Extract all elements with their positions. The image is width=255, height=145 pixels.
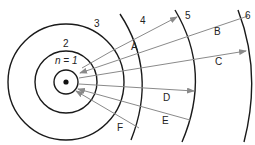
label-n5: 5 — [185, 11, 191, 21]
label-B: B — [214, 27, 221, 37]
nucleus-icon — [63, 79, 68, 84]
label-C: C — [215, 57, 222, 67]
label-A: A — [131, 42, 138, 52]
label-n3: 3 — [94, 19, 100, 29]
bohr-diagram — [0, 0, 255, 145]
label-n2: 2 — [63, 39, 69, 49]
label-n6: 6 — [245, 11, 251, 21]
label-E: E — [162, 116, 169, 126]
arrow-A-tail — [82, 52, 110, 68]
label-F: F — [117, 123, 123, 133]
orbit-n6 — [238, 10, 252, 142]
arrow-E — [78, 89, 190, 120]
level-n1-text: n = 1 — [55, 55, 78, 66]
label-n1: n = 1 — [55, 56, 78, 66]
label-D: D — [163, 93, 170, 103]
label-n4: 4 — [140, 16, 146, 26]
orbit-n5 — [175, 10, 195, 142]
